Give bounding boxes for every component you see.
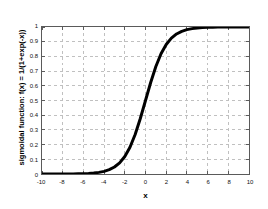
y-tick-label: 0 (35, 172, 38, 178)
x-tick-label: -2 (122, 179, 127, 186)
y-tick-label: 0.9 (30, 38, 38, 44)
x-tick-label: 4 (186, 179, 189, 186)
x-tick-label: 0 (144, 179, 147, 186)
y-tick-label: 1 (35, 23, 38, 29)
sigmoid-curve (42, 27, 249, 174)
x-tick-label: -4 (101, 179, 106, 186)
x-tick-label: 2 (165, 179, 168, 186)
x-tick-label: 8 (227, 179, 230, 186)
x-tick-label: 10 (247, 179, 254, 186)
y-tick-label: 0.3 (30, 127, 38, 133)
y-axis-title: sigmoidal function: f(x) = 1/(1+exp(-x)) (17, 14, 26, 182)
x-axis-tick-labels: -10-8-6-4-20246810 (41, 179, 250, 189)
y-tick-label: 0.8 (30, 53, 38, 59)
x-tick-label: 6 (207, 179, 210, 186)
y-tick-label: 0.2 (30, 142, 38, 148)
x-tick-label: -8 (59, 179, 64, 186)
x-axis-title: x (41, 191, 250, 200)
chart-figure: 00.10.20.30.40.50.60.70.80.91 -10-8-6-4-… (0, 0, 268, 209)
x-tick-label: -6 (80, 179, 85, 186)
y-tick-label: 0.7 (30, 68, 38, 74)
y-tick-label: 0.6 (30, 83, 38, 89)
x-tick-label: -10 (37, 179, 46, 186)
plot-area (41, 26, 250, 175)
y-tick-label: 0.4 (30, 112, 38, 118)
y-tick-label: 0.1 (30, 157, 38, 163)
y-tick-label: 0.5 (30, 98, 38, 104)
